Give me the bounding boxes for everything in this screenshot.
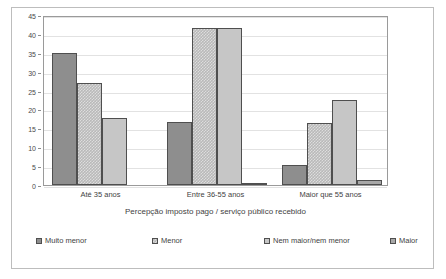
- legend-swatch-icon: [36, 238, 42, 244]
- bar: [102, 118, 127, 185]
- category-label: Até 35 anos: [80, 191, 120, 199]
- y-tick-label: 45: [28, 13, 36, 20]
- bar: [332, 100, 357, 185]
- y-tick-label: 40: [28, 31, 36, 38]
- chart-legend: Muito menorMenorNem maior/nem menorMaior: [24, 237, 424, 251]
- y-tick-label: 10: [28, 145, 36, 152]
- bar: [242, 183, 267, 185]
- legend-label: Muito menor: [45, 237, 87, 245]
- y-tick-mark: [38, 148, 41, 149]
- legend-label: Maior: [399, 237, 418, 245]
- legend-label: Menor: [161, 237, 182, 245]
- y-tick-mark: [38, 35, 41, 36]
- y-tick-label: 5: [32, 164, 36, 171]
- y-tick-label: 15: [28, 126, 36, 133]
- bar: [217, 28, 242, 185]
- bar: [192, 28, 217, 185]
- y-tick-mark: [38, 73, 41, 74]
- y-tick-label: 25: [28, 88, 36, 95]
- y-tick-label: 30: [28, 69, 36, 76]
- legend-item[interactable]: Maior: [390, 237, 418, 245]
- category-label: Entre 36-55 anos: [187, 191, 245, 199]
- gridline: [44, 187, 387, 188]
- legend-swatch-icon: [264, 238, 270, 244]
- bar-group: [52, 17, 152, 185]
- y-tick-mark: [38, 110, 41, 111]
- y-tick-label: 35: [28, 50, 36, 57]
- plot-area: [43, 16, 388, 186]
- category-axis-labels: Até 35 anosEntre 36-55 anosMaior que 55 …: [43, 191, 388, 205]
- y-tick-mark: [38, 186, 41, 187]
- bar: [77, 83, 102, 185]
- y-axis: 051015202530354045: [11, 16, 41, 186]
- bar: [52, 53, 77, 185]
- legend-item[interactable]: Menor: [152, 237, 182, 245]
- bar-group: [282, 17, 382, 185]
- bars-layer: [44, 17, 387, 185]
- y-tick-label: 0: [32, 183, 36, 190]
- legend-swatch-icon: [390, 238, 396, 244]
- bar: [307, 123, 332, 185]
- legend-swatch-icon: [152, 238, 158, 244]
- y-tick-mark: [38, 167, 41, 168]
- bar: [167, 122, 192, 185]
- bar-group: [167, 17, 267, 185]
- legend-item[interactable]: Muito menor: [36, 237, 87, 245]
- bar-chart-figure: 051015202530354045 Até 35 anosEntre 36-5…: [0, 0, 446, 279]
- y-tick-mark: [38, 129, 41, 130]
- bar: [282, 165, 307, 185]
- category-label: Maior que 55 anos: [299, 191, 361, 199]
- bar: [357, 180, 382, 185]
- y-tick-label: 20: [28, 107, 36, 114]
- y-tick-mark: [38, 54, 41, 55]
- y-tick-mark: [38, 92, 41, 93]
- y-tick-mark: [38, 16, 41, 17]
- x-axis-title: Percepção imposto pago / serviço público…: [43, 208, 388, 216]
- legend-label: Nem maior/nem menor: [273, 237, 350, 245]
- legend-item[interactable]: Nem maior/nem menor: [264, 237, 350, 245]
